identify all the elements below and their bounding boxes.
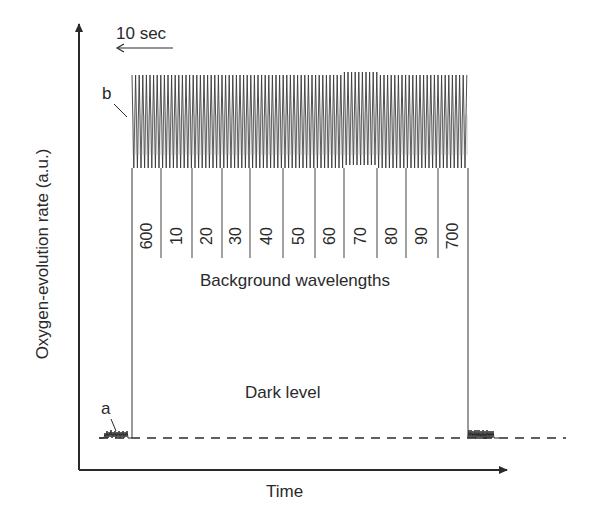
scale-arrow: [117, 44, 173, 52]
trace-b: [132, 72, 468, 168]
y-axis-label: Oxygen-evolution rate (a.u.): [32, 144, 54, 364]
wavelength-label: 80: [383, 216, 401, 256]
wavelength-label: 40: [258, 216, 276, 256]
scale-label: 10 sec: [116, 24, 166, 44]
trace-a: [99, 430, 131, 438]
label-a-pointer: [111, 419, 116, 431]
wavelength-label: 50: [290, 216, 308, 256]
wavelength-label: 10: [168, 216, 186, 256]
wavelength-label: 30: [227, 216, 245, 256]
wavelength-label: 700: [444, 216, 462, 256]
wavelength-label: 60: [321, 216, 339, 256]
background-wavelengths-label: Background wavelengths: [200, 271, 390, 291]
wavelength-label: 20: [198, 216, 216, 256]
wavelength-label: 90: [413, 216, 431, 256]
wavelength-label: 600: [138, 216, 156, 256]
wavelength-label: 70: [352, 216, 370, 256]
trace-label-b: b: [102, 84, 111, 104]
trace-label-a: a: [101, 399, 110, 419]
oxygen-evolution-diagram: [0, 0, 596, 530]
x-axis-label: Time: [266, 482, 303, 502]
dark-level-label: Dark level: [245, 383, 321, 403]
label-b-pointer: [114, 104, 127, 117]
